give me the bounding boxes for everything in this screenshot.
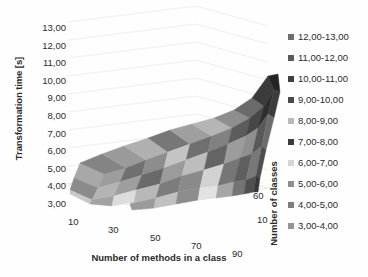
legend-item-label: 9,00-10,00 [298, 95, 343, 105]
legend-item-label: 3,00-4,00 [298, 221, 338, 231]
surface-svg [68, 18, 268, 216]
legend-swatch-icon [288, 118, 294, 124]
z-axis-ticks: 6010 [235, 190, 295, 230]
y-axis-tick-label: 8,00 [22, 110, 66, 121]
x-axis-title: Number of methods in a class [34, 252, 284, 263]
plot-area [68, 18, 268, 216]
y-axis-tick-label: 5,00 [22, 163, 66, 174]
legend-item[interactable]: 12,00-13,00 [288, 26, 368, 47]
x-axis-tick-label: 50 [150, 232, 161, 243]
legend-item[interactable]: 11,00-12,00 [288, 47, 368, 68]
legend-item-label: 6,00-7,00 [298, 158, 338, 168]
legend-item[interactable]: 5,00-6,00 [288, 173, 368, 194]
legend-item-label: 4,00-5,00 [298, 200, 338, 210]
legend-item[interactable]: 6,00-7,00 [288, 152, 368, 173]
legend-swatch-icon [288, 55, 294, 61]
z-axis-tick-label: 10 [257, 214, 268, 225]
y-axis-tick-label: 7,00 [22, 128, 66, 139]
legend-item-label: 12,00-13,00 [298, 32, 349, 42]
y-axis-tick-label: 6,00 [22, 145, 66, 156]
legend-item[interactable]: 10,00-11,00 [288, 68, 368, 89]
legend-swatch-icon [288, 223, 294, 229]
y-axis-tick-label: 9,00 [22, 92, 66, 103]
legend-item[interactable]: 8,00-9,00 [288, 110, 368, 131]
x-axis-tick-label: 30 [108, 224, 119, 235]
y-axis-tick-label: 11,00 [22, 57, 66, 68]
legend-item[interactable]: 4,00-5,00 [288, 194, 368, 215]
surface-facet [198, 186, 218, 200]
legend-swatch-icon [288, 202, 294, 208]
legend-item-label: 5,00-6,00 [298, 179, 338, 189]
x-axis-tick-label: 70 [191, 240, 202, 251]
legend-swatch-icon [288, 34, 294, 40]
legend: 12,00-13,0011,00-12,0010,00-11,009,00-10… [288, 26, 368, 236]
legend-item[interactable]: 9,00-10,00 [288, 89, 368, 110]
legend-item[interactable]: 3,00-4,00 [288, 215, 368, 236]
legend-item-label: 8,00-9,00 [298, 116, 338, 126]
z-axis-title: Number of classes [268, 144, 279, 264]
y-axis-tick-label: 13,00 [22, 22, 66, 33]
legend-swatch-icon [288, 97, 294, 103]
legend-swatch-icon [288, 139, 294, 145]
z-axis-tick-label: 60 [253, 190, 264, 201]
legend-item-label: 7,00-8,00 [298, 137, 338, 147]
legend-swatch-icon [288, 181, 294, 187]
legend-swatch-icon [288, 76, 294, 82]
y-axis-tick-label: 10,00 [22, 75, 66, 86]
y-axis-tick-label: 3,00 [22, 198, 66, 209]
legend-item-label: 11,00-12,00 [298, 53, 348, 63]
x-axis-tick-label: 10 [68, 216, 79, 227]
legend-item-label: 10,00-11,00 [298, 74, 348, 84]
y-axis-tick-label: 4,00 [22, 180, 66, 191]
legend-item[interactable]: 7,00-8,00 [288, 131, 368, 152]
legend-swatch-icon [288, 160, 294, 166]
y-axis-tick-label: 12,00 [22, 40, 66, 51]
surface-chart: Transformation time [s] 13,0012,0011,001… [0, 0, 368, 277]
